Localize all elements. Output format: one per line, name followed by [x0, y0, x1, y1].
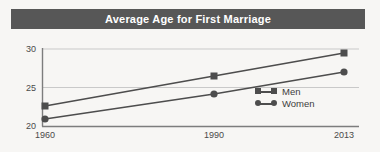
legend-key-women-circle-icon	[255, 99, 277, 108]
y-tick-label-20: 20	[14, 122, 36, 131]
data-point-women-1990	[210, 90, 217, 97]
legend-label-women: Women	[282, 98, 315, 109]
data-point-women-1960	[41, 115, 48, 122]
chart-figure: Average Age for First Marriage 30 25 20 …	[0, 0, 380, 152]
data-point-men-1960	[42, 103, 49, 110]
x-tick-label-2013: 2013	[324, 131, 364, 140]
data-point-women-2013	[340, 68, 347, 75]
y-tick-label-25: 25	[14, 84, 36, 93]
chart-legend: Men Women	[255, 86, 333, 110]
legend-key-men-square-icon	[255, 87, 277, 96]
data-point-men-1990	[211, 73, 218, 80]
data-point-men-2013	[341, 50, 348, 57]
x-tick-label-1990: 1990	[194, 131, 234, 140]
legend-item-men: Men	[255, 86, 333, 97]
y-tick-label-30: 30	[14, 45, 36, 54]
legend-label-men: Men	[282, 86, 300, 97]
legend-item-women: Women	[255, 98, 333, 109]
chart-plot-area	[0, 0, 380, 152]
x-tick-label-1960: 1960	[25, 131, 65, 140]
